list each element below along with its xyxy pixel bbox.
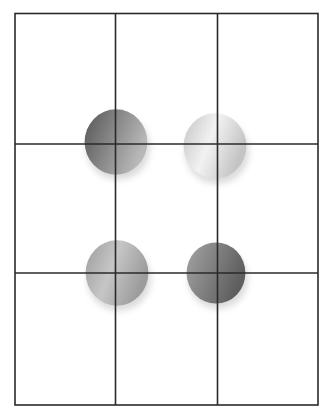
sphere-bottom-left	[86, 240, 151, 311]
rule-of-thirds-diagram	[0, 0, 331, 412]
grid-lines	[15, 14, 318, 406]
grid-canvas	[0, 0, 331, 412]
spheres-layer	[85, 109, 249, 311]
grid-border	[15, 14, 318, 406]
sphere-body	[184, 113, 247, 178]
sphere-top-right	[184, 113, 249, 184]
